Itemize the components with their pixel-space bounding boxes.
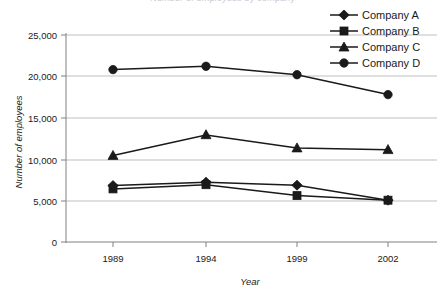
x-tick-label-1994: 1994	[195, 253, 216, 264]
y-axis-title: Number of employees	[13, 95, 24, 188]
circle-marker-icon	[340, 59, 348, 67]
data-point-company-d-1999	[293, 71, 301, 79]
series-line-company-b	[113, 185, 388, 201]
legend-label-company-d: Company D	[362, 57, 420, 69]
data-point-company-b-1999	[293, 192, 301, 200]
x-tick-marks	[113, 242, 388, 247]
series-company-d	[109, 62, 392, 99]
legend-item-company-d[interactable]: Company D	[330, 57, 420, 69]
series-company-c	[108, 130, 393, 160]
legend-label-company-b: Company B	[362, 25, 419, 37]
data-point-company-c-1994	[201, 130, 211, 139]
x-tick-label-2002: 2002	[377, 253, 398, 264]
chart-canvas: 25,000 20,000 15,000 10,000 5,000 0 1989…	[0, 0, 445, 297]
y-tick-label-0: 0	[52, 237, 57, 248]
x-axis-title: Year	[240, 276, 260, 287]
legend-label-company-c: Company C	[362, 41, 420, 53]
data-point-company-d-1989	[109, 65, 117, 73]
x-tick-label-1989: 1989	[102, 253, 123, 264]
y-tick-label-25000: 25,000	[28, 30, 57, 41]
x-tick-label-1999: 1999	[286, 253, 307, 264]
series-line-company-d	[113, 66, 388, 94]
diamond-marker-icon	[339, 10, 349, 20]
y-tick-label-20000: 20,000	[28, 71, 57, 82]
legend-label-company-a: Company A	[362, 9, 420, 21]
y-tick-label-10000: 10,000	[28, 155, 57, 166]
y-axis-tick-labels: 25,000 20,000 15,000 10,000 5,000 0	[28, 30, 57, 248]
data-point-company-a-1999	[292, 180, 302, 190]
series-line-company-c	[113, 135, 388, 156]
x-axis-tick-labels: 1989 1994 1999 2002	[102, 253, 398, 264]
line-chart: Number of employees by company	[0, 0, 445, 297]
legend-item-company-a[interactable]: Company A	[330, 9, 420, 21]
y-tick-marks	[61, 35, 66, 242]
chart-legend: Company A Company B Company C Company D	[330, 9, 420, 69]
legend-item-company-b[interactable]: Company B	[330, 25, 419, 37]
legend-item-company-c[interactable]: Company C	[330, 41, 420, 53]
square-marker-icon	[340, 27, 348, 35]
y-tick-label-5000: 5,000	[33, 196, 57, 207]
y-tick-label-15000: 15,000	[28, 113, 57, 124]
data-point-company-d-2002	[384, 90, 392, 98]
data-point-company-d-1994	[202, 62, 210, 70]
